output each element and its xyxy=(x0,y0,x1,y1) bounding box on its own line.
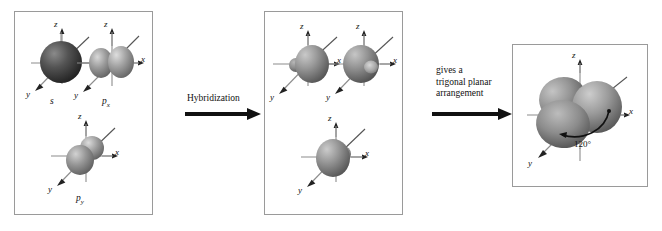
hybrid-orbitals-panel: z x y xyxy=(264,11,403,215)
arrangement-arrow xyxy=(430,105,514,123)
arrangement-caption-line-2: trigonal planar xyxy=(436,77,492,89)
sp2-2-axis-label-y: y xyxy=(326,93,330,102)
px-orbital-graphic xyxy=(71,20,153,108)
sp2-1-axis-label-z: z xyxy=(300,22,304,31)
arrangement-caption-line-1: gives a xyxy=(436,65,492,77)
arrangement-caption: gives a trigonal planar arrangement xyxy=(436,65,492,100)
px-axis-label-x: x xyxy=(141,55,145,64)
trigonal-axis-label-x: x xyxy=(629,107,633,116)
px-axis-label-z: z xyxy=(104,20,108,29)
sp2-3-axis-label-x: x xyxy=(365,149,369,158)
sp2-1-axis-label-y: y xyxy=(270,93,274,102)
trigonal-planar-graphic xyxy=(517,49,645,184)
py-orbital-label: py xyxy=(76,193,84,206)
py-orbital-graphic xyxy=(45,110,127,206)
s-orbital-label: s xyxy=(50,96,54,106)
sp2-2-axis-label-z: z xyxy=(356,22,360,31)
arrangement-caption-line-3: arrangement xyxy=(436,88,492,100)
hybridization-caption: Hybridization xyxy=(187,93,240,105)
sp2-orbital-3: z x y xyxy=(295,110,377,206)
hybridization-caption-line-1: Hybridization xyxy=(187,93,240,105)
combined-sp2-set: z x y 120° xyxy=(517,49,645,184)
trigonal-axis-label-z: z xyxy=(572,51,576,60)
hybridization-arrow xyxy=(183,105,263,123)
sp2-3-axis-label-z: z xyxy=(328,114,332,123)
py-axis-label-z: z xyxy=(78,112,82,121)
px-axis-label-y: y xyxy=(74,91,78,100)
px-orbital: z x y px xyxy=(71,20,153,108)
sp2-orbital-2: z x y xyxy=(323,20,405,108)
sp2-2-axis-label-x: x xyxy=(393,56,397,65)
sp2-3-axis-label-y: y xyxy=(298,186,302,195)
px-orbital-label: px xyxy=(102,96,110,109)
bond-angle-label: 120° xyxy=(574,139,591,149)
sp2-orbital-3-graphic xyxy=(295,110,377,206)
trigonal-planar-panel: z x y 120° xyxy=(512,44,648,187)
py-axis-label-y: y xyxy=(48,185,52,194)
s-axis-label-y: y xyxy=(26,90,30,99)
atomic-orbitals-panel: z x y s xyxy=(14,11,153,215)
py-axis-label-x: x xyxy=(115,148,119,157)
py-orbital: z x y py xyxy=(45,110,127,206)
orbital-hybridization-figure: z x y s xyxy=(0,0,662,231)
trigonal-axis-label-y: y xyxy=(528,159,532,168)
s-axis-label-z: z xyxy=(54,20,58,29)
